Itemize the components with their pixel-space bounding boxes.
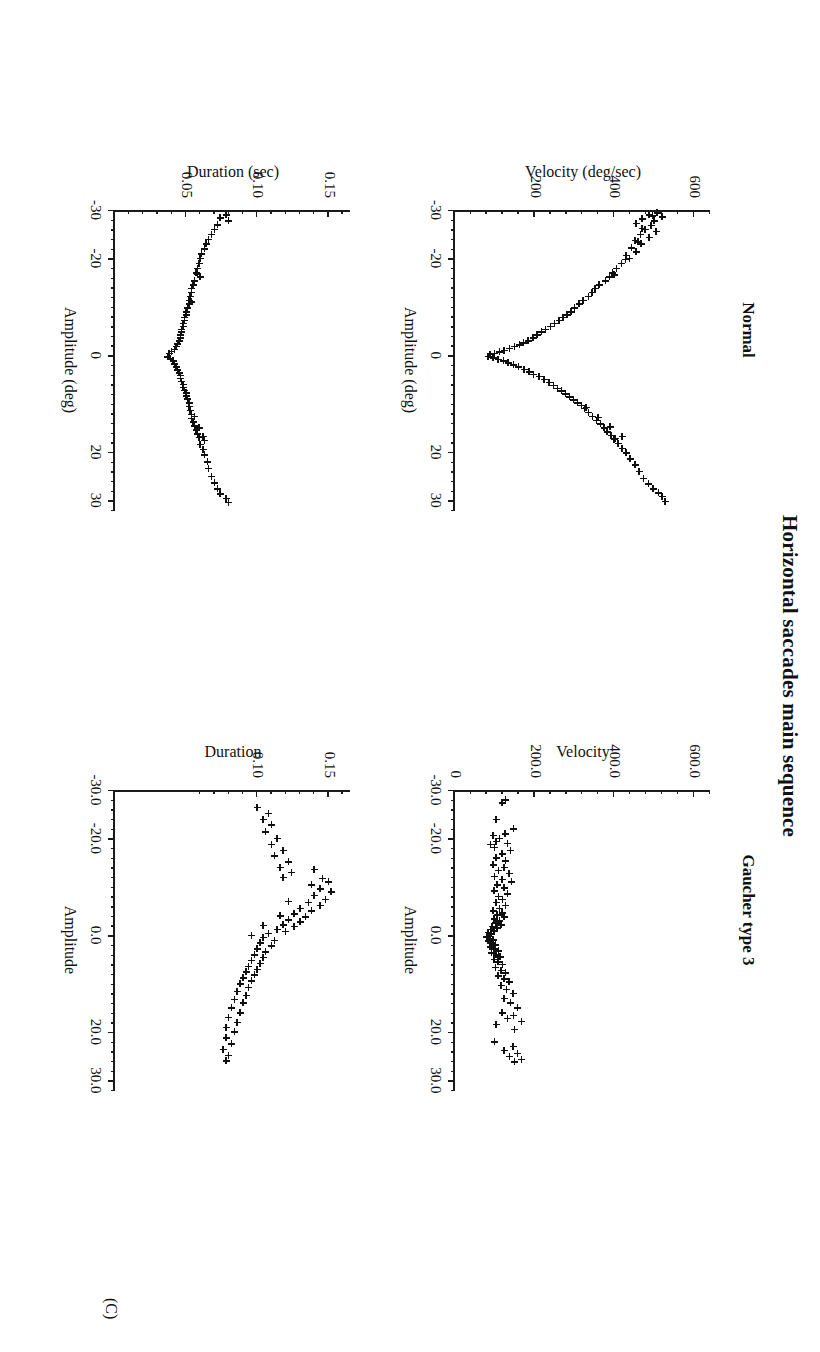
data-point [248, 932, 255, 939]
x-tick-minor [451, 848, 455, 849]
x-tick-minor [111, 287, 115, 288]
x-tick-minor [451, 964, 455, 965]
x-tick [108, 1080, 115, 1081]
x-tick-minor [111, 278, 115, 279]
x-tick-label: 30.0 [87, 1067, 104, 1093]
y-tick-minor [228, 210, 229, 214]
x-tick-minor [451, 510, 455, 511]
x-tick-minor [451, 413, 455, 414]
x-tick-minor [111, 974, 115, 975]
data-point [328, 888, 335, 895]
y-tick-minor [597, 210, 598, 214]
x-tick-minor [451, 945, 455, 946]
data-point [626, 255, 633, 262]
data-point [595, 414, 602, 421]
y-tick-minor [470, 790, 471, 794]
x-tick-minor [451, 278, 455, 279]
x-tick-minor [111, 462, 115, 463]
y-tick-minor [597, 790, 598, 794]
data-point [234, 1019, 241, 1026]
data-point [237, 1009, 244, 1016]
x-tick-label: -30.0 [427, 774, 444, 805]
figure-canvas: Horizontal saccades main sequence Normal… [0, 0, 820, 1352]
x-tick [448, 210, 455, 211]
x-tick-minor [451, 297, 455, 298]
y-tick [327, 210, 328, 217]
x-tick-minor [111, 423, 115, 424]
y-tick [533, 790, 534, 797]
x-tick-minor [451, 433, 455, 434]
panel-gaucher-velocity: 0200.0400.0600.0-30.0-20.00.020.030.0Vel… [455, 790, 710, 1090]
x-tick-minor [111, 268, 115, 269]
data-point [188, 298, 195, 305]
x-tick-minor [111, 984, 115, 985]
x-axis-line [453, 210, 455, 510]
x-tick-minor [451, 220, 455, 221]
y-tick-minor [285, 790, 286, 794]
x-tick-minor [111, 220, 115, 221]
y-axis-title: Velocity [494, 743, 674, 761]
x-tick-minor [111, 481, 115, 482]
y-tick-minor [709, 790, 710, 794]
x-tick-minor [451, 955, 455, 956]
x-tick-minor [451, 481, 455, 482]
y-tick [256, 790, 257, 797]
x-tick [448, 935, 455, 936]
x-tick-minor [111, 1051, 115, 1052]
y-tick [327, 790, 328, 797]
x-tick-minor [111, 404, 115, 405]
data-point [493, 816, 500, 823]
x-tick-minor [451, 268, 455, 269]
data-point [649, 212, 656, 219]
data-point [231, 1028, 238, 1035]
data-point [487, 841, 494, 848]
data-point [223, 1024, 230, 1031]
y-tick-minor [342, 790, 343, 794]
plot-area-gaucher-velocity [455, 790, 710, 1090]
x-tick [448, 1032, 455, 1033]
data-point [493, 1021, 500, 1028]
x-tick-minor [451, 1042, 455, 1043]
x-tick-minor [451, 1022, 455, 1023]
x-tick-minor [451, 819, 455, 820]
x-tick-minor [451, 993, 455, 994]
data-point [662, 498, 669, 505]
x-tick [108, 355, 115, 356]
x-tick-minor [111, 249, 115, 250]
x-tick [448, 258, 455, 259]
x-tick-label: 30.0 [427, 1067, 444, 1093]
data-point [511, 1026, 518, 1033]
figure-rotation-wrapper: Horizontal saccades main sequence Normal… [0, 0, 820, 1352]
y-tick-minor [285, 210, 286, 214]
x-tick-minor [451, 423, 455, 424]
data-point [262, 828, 269, 835]
data-point [228, 1004, 235, 1011]
data-point [268, 821, 275, 828]
x-tick-minor [111, 819, 115, 820]
column-header-normal: Normal [738, 180, 758, 480]
x-tick-minor [451, 404, 455, 405]
data-point [225, 1014, 232, 1021]
y-tick-minor [470, 210, 471, 214]
data-point [506, 870, 513, 877]
x-tick-minor [111, 375, 115, 376]
y-tick-minor [242, 790, 243, 794]
y-tick-minor [549, 790, 550, 794]
data-point [491, 873, 498, 880]
x-tick-minor [451, 1051, 455, 1052]
x-tick-minor [451, 316, 455, 317]
x-tick-label: 20.0 [87, 1019, 104, 1045]
data-point [305, 899, 312, 906]
data-point [285, 858, 292, 865]
y-tick-minor [270, 790, 271, 794]
x-tick-minor [111, 809, 115, 810]
y-tick-minor [199, 790, 200, 794]
x-axis-title: Amplitude (deg) [61, 307, 79, 413]
x-tick-minor [451, 287, 455, 288]
data-point [502, 830, 509, 837]
data-point [308, 881, 315, 888]
data-point [659, 213, 666, 220]
y-tick-minor [549, 210, 550, 214]
x-tick-minor [451, 375, 455, 376]
x-tick-minor [111, 800, 115, 801]
